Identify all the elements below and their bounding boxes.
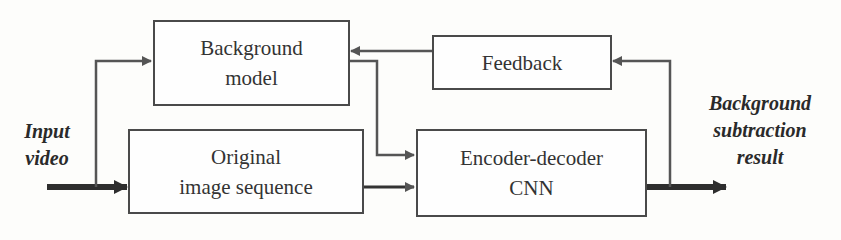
encoder-decoder-cnn-box: Encoder-decoder CNN [416, 129, 647, 217]
output-line3: result [690, 144, 830, 171]
background-model-line2: model [225, 63, 278, 93]
input-line1: Input [14, 118, 80, 145]
background-subtraction-result-label: Background subtraction result [690, 90, 830, 171]
output-line2: subtraction [690, 117, 830, 144]
feedback-box: Feedback [432, 35, 612, 90]
original-line2: image sequence [179, 172, 313, 202]
input-video-label: Input video [14, 118, 80, 172]
encoder-line1: Encoder-decoder [460, 143, 603, 173]
input-line2: video [14, 145, 80, 172]
output-line1: Background [690, 90, 830, 117]
feedback-label: Feedback [482, 48, 562, 78]
encoder-line2: CNN [509, 173, 553, 203]
background-model-box: Background model [153, 20, 350, 106]
background-model-line1: Background [200, 33, 303, 63]
original-image-sequence-box: Original image sequence [128, 129, 364, 214]
original-line1: Original [211, 142, 281, 172]
